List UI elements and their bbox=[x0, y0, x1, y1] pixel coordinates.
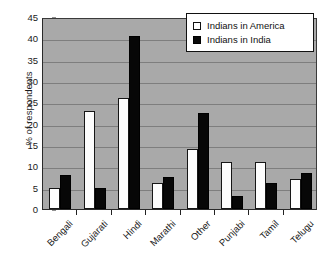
bar bbox=[95, 188, 106, 209]
x-axis-tick-labels: BengaliGujaratiHindiMarathiOtherPunjabiT… bbox=[0, 210, 324, 272]
y-axis-tick-label: 20 bbox=[14, 120, 38, 130]
legend-label: Indians in India bbox=[207, 35, 271, 45]
bar bbox=[129, 36, 140, 209]
x-axis-tick-label: Telugu bbox=[253, 218, 316, 272]
y-axis-tick-label: 5 bbox=[14, 184, 38, 194]
bar bbox=[187, 149, 198, 209]
chart-legend: Indians in America Indians in India bbox=[186, 13, 314, 52]
bar bbox=[266, 183, 277, 209]
bar bbox=[221, 162, 232, 209]
bar bbox=[84, 111, 95, 209]
y-axis-tick-label: 40 bbox=[14, 35, 38, 45]
bar bbox=[49, 188, 60, 209]
y-axis-tick-label: 35 bbox=[14, 56, 38, 66]
legend-label: Indians in America bbox=[207, 21, 285, 31]
bar-chart: % of respondents 051015202530354045 Beng… bbox=[0, 0, 324, 272]
bar-group bbox=[118, 19, 140, 209]
y-axis-tick-label: 30 bbox=[14, 77, 38, 87]
bar-group bbox=[84, 19, 106, 209]
y-axis-tick-label: 25 bbox=[14, 99, 38, 109]
bar bbox=[60, 175, 71, 209]
y-axis-tick-label: 45 bbox=[14, 13, 38, 23]
bar-group bbox=[49, 19, 71, 209]
bar bbox=[290, 179, 301, 209]
bar bbox=[232, 196, 243, 209]
legend-item-indians-in-india: Indians in India bbox=[193, 33, 307, 46]
open-square-swatch-icon bbox=[193, 22, 201, 30]
bar-group bbox=[152, 19, 174, 209]
bar bbox=[118, 98, 129, 209]
bar bbox=[255, 162, 266, 209]
legend-item-indians-in-america: Indians in America bbox=[193, 19, 307, 32]
bar bbox=[198, 113, 209, 209]
bar bbox=[301, 173, 312, 209]
y-axis-tick-label: 10 bbox=[14, 163, 38, 173]
bar bbox=[163, 177, 174, 209]
y-axis-tick-label: 15 bbox=[14, 141, 38, 151]
filled-square-swatch-icon bbox=[193, 36, 201, 44]
bar bbox=[152, 183, 163, 209]
